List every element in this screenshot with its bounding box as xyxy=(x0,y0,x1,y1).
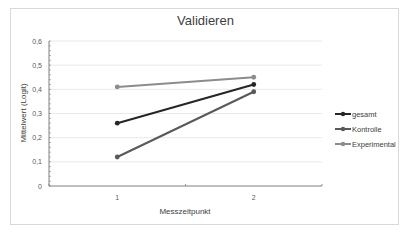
data-point-marker xyxy=(251,82,256,87)
series-line xyxy=(117,92,254,157)
line-chart: 00,10,20,30,40,50,6 12 Messzeitpunkt Mit… xyxy=(0,0,411,239)
data-point-marker xyxy=(115,85,120,90)
data-point-marker xyxy=(115,121,120,126)
legend-marker-icon xyxy=(341,142,345,146)
x-tick-label: 1 xyxy=(115,194,119,201)
legend-item-kontrolle: Kontrolle xyxy=(335,125,382,134)
x-tick-labels: 12 xyxy=(115,194,256,201)
legend-marker-icon xyxy=(341,127,345,131)
legend-marker-icon xyxy=(341,112,345,116)
data-point-marker xyxy=(251,75,256,80)
y-tick-label: 0 xyxy=(38,183,42,190)
legend-item-experimental: Experimental xyxy=(335,140,396,149)
x-axis-title: Messzeitpunkt xyxy=(159,207,211,216)
y-tick-labels: 00,10,20,30,40,50,6 xyxy=(32,38,42,190)
y-tick-label: 0,5 xyxy=(32,62,42,69)
series-experimental xyxy=(115,75,256,89)
x-tick-label: 2 xyxy=(252,194,256,201)
series-kontrolle xyxy=(115,89,256,159)
y-tick-label: 0,4 xyxy=(32,86,42,93)
legend: gesamtKontrolleExperimental xyxy=(335,110,396,149)
legend-label: gesamt xyxy=(352,110,378,119)
series-gesamt xyxy=(115,82,256,125)
y-tick-label: 0,2 xyxy=(32,134,42,141)
y-axis-title: Mittelwert (Logit) xyxy=(19,83,28,142)
series-line xyxy=(117,85,254,124)
legend-label: Experimental xyxy=(352,140,396,149)
gridlines xyxy=(49,41,322,162)
legend-item-gesamt: gesamt xyxy=(335,110,378,119)
legend-label: Kontrolle xyxy=(352,125,382,134)
data-series xyxy=(115,75,256,160)
series-line xyxy=(117,77,254,87)
data-point-marker xyxy=(251,89,256,94)
y-tick-label: 0,1 xyxy=(32,158,42,165)
y-tick-label: 0,6 xyxy=(32,38,42,45)
data-point-marker xyxy=(115,155,120,160)
y-tick-label: 0,3 xyxy=(32,110,42,117)
